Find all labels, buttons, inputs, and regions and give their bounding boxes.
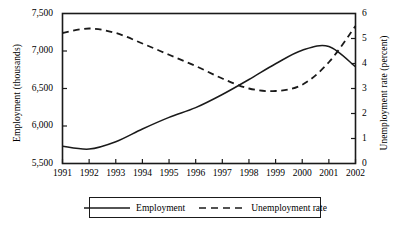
plot-area bbox=[0, 0, 402, 229]
legend-entry-unemployment-rate: Unemployment rate bbox=[198, 203, 327, 213]
legend-swatch-solid-line-icon bbox=[83, 203, 131, 213]
legend-label-employment: Employment bbox=[136, 203, 185, 213]
legend-label-unemployment-rate: Unemployment rate bbox=[251, 203, 327, 213]
legend-swatch-dashed-line-icon bbox=[198, 203, 246, 213]
chart-legend: Employment Unemployment rate bbox=[89, 197, 321, 218]
chart-figure: Employment (thousands) Unemployment rate… bbox=[0, 0, 402, 229]
series-line-employment bbox=[63, 46, 356, 150]
plot-frame bbox=[63, 14, 356, 164]
legend-entry-employment: Employment bbox=[83, 203, 185, 213]
series-line-unemployment-rate bbox=[63, 26, 356, 91]
